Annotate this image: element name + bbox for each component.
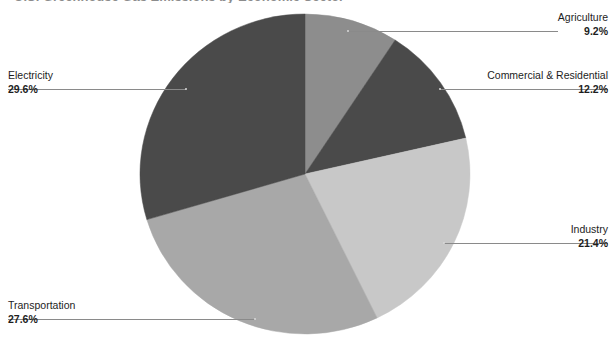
callout-industry: Industry 21.4%: [571, 223, 608, 250]
callout-electricity: Electricity 29.6%: [8, 69, 53, 96]
callout-value-industry: 21.4%: [571, 237, 608, 251]
leader-anchor-electricity: [185, 88, 187, 90]
leader-anchor-industry: [443, 242, 445, 244]
leader-anchor-transportation: [254, 318, 256, 320]
callout-transportation: Transportation 27.6%: [8, 299, 75, 326]
leader-anchor-agriculture: [347, 30, 349, 32]
callout-label-industry: Industry: [571, 223, 608, 237]
callout-label-commercial-residential: Commercial & Residential: [487, 69, 608, 83]
leader-anchor-commercial-residential: [439, 88, 441, 90]
pie-slice-group: [140, 14, 470, 334]
callout-value-transportation: 27.6%: [8, 313, 75, 327]
leader-line-agriculture: [348, 31, 558, 32]
callout-agriculture: Agriculture 9.2%: [558, 11, 608, 38]
callout-value-commercial-residential: 12.2%: [487, 83, 608, 97]
callout-value-electricity: 29.6%: [8, 83, 53, 97]
pie-chart-figure: U.S. Greenhouse Gas Emissions by Economi…: [0, 0, 616, 350]
callout-commercial-residential: Commercial & Residential 12.2%: [487, 69, 608, 96]
callout-value-agriculture: 9.2%: [558, 25, 608, 39]
pie-chart-graphic: [0, 0, 616, 350]
callout-label-agriculture: Agriculture: [558, 11, 608, 25]
callout-label-transportation: Transportation: [8, 299, 75, 313]
callout-label-electricity: Electricity: [8, 69, 53, 83]
